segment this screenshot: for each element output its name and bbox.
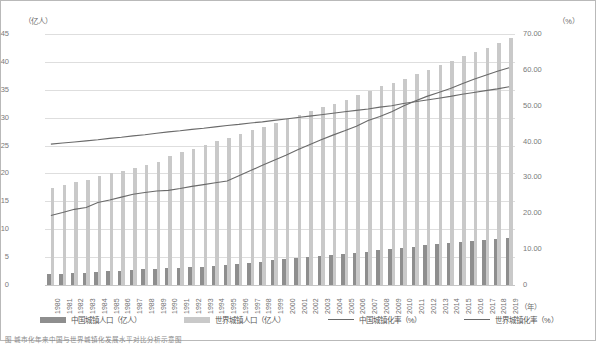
x-axis-tick-label: 2016 — [477, 298, 484, 314]
legend-item[interactable]: 世界城镇人口（亿人） — [184, 314, 285, 325]
x-axis-tick-label: 1982 — [77, 298, 84, 314]
x-axis-tick-label: 2006 — [359, 298, 366, 314]
y-axis-right-tick-label: 10.00 — [523, 245, 563, 253]
x-axis-tick-label: 1985 — [113, 298, 120, 314]
legend-item-label: 中国城镇人口（亿人） — [71, 314, 141, 325]
x-axis-tick-label: 1996 — [242, 298, 249, 314]
legend-item[interactable]: 中国城镇化率（%） — [328, 314, 422, 325]
y-axis-right-tick-label: 30.00 — [523, 173, 563, 181]
x-axis-tick-label: 1986 — [124, 298, 131, 314]
x-axis-tick-label: 1998 — [265, 298, 272, 314]
x-axis-tick-label: 1999 — [277, 298, 284, 314]
y-axis-left-tick-label: 20 — [0, 169, 9, 177]
x-axis-unit: （年） — [520, 301, 541, 312]
x-axis-tick-label: 2007 — [371, 298, 378, 314]
x-axis-tick-label: 2004 — [336, 298, 343, 314]
x-axis-tick-label: 2015 — [465, 298, 472, 314]
y-axis-left-tick-label: 35 — [0, 86, 9, 94]
y-axis-left-unit: （亿人） — [24, 15, 52, 26]
line-china-urbanization-rate — [51, 68, 509, 216]
legend-item[interactable]: 世界城镇化率（%） — [464, 314, 558, 325]
x-axis-tick-label: 2018 — [500, 298, 507, 314]
y-axis-right-tick-label: 60.00 — [523, 66, 563, 74]
x-axis-tick-label: 2012 — [430, 298, 437, 314]
x-axis-tick-label: 2019 — [512, 298, 519, 314]
y-axis-left-tick-label: 15 — [0, 197, 9, 205]
figure-caption: 图 城市化年来中国与世界城镇化发展水平对比分析示意图 — [5, 334, 182, 344]
y-axis-left-tick-label: 40 — [0, 58, 9, 66]
x-axis-tick-label: 2005 — [348, 298, 355, 314]
x-axis-tick-label: 1981 — [66, 298, 73, 314]
x-axis-tick-label: 1984 — [101, 298, 108, 314]
line-series-layer — [45, 34, 515, 285]
legend-line-swatch-icon — [464, 319, 490, 320]
x-axis-tick-label: 2001 — [301, 298, 308, 314]
x-axis-tick-label: 2008 — [383, 298, 390, 314]
y-axis-left-tick-label: 30 — [0, 114, 9, 122]
plot-area: 454035302520151050 70.0060.0050.0040.003… — [45, 34, 515, 285]
legend-bar-swatch-icon — [40, 317, 66, 323]
y-axis-right-tick-label: 40.00 — [523, 138, 563, 146]
y-axis-right-tick-label: 50.00 — [523, 102, 563, 110]
x-axis-tick-label: 2010 — [406, 298, 413, 314]
x-axis-tick-label: 1993 — [207, 298, 214, 314]
x-axis-tick-label: 2014 — [453, 298, 460, 314]
y-axis-right-tick-label: 70.00 — [523, 30, 563, 38]
legend-bar-swatch-icon — [184, 317, 210, 323]
y-axis-left-tick-label: 25 — [0, 142, 9, 150]
legend-item-label: 世界城镇人口（亿人） — [215, 314, 285, 325]
chart-legend: 中国城镇人口（亿人）世界城镇人口（亿人）中国城镇化率（%）世界城镇化率（%） — [1, 314, 596, 325]
x-axis-tick-label: 2009 — [395, 298, 402, 314]
y-axis-left-tick-label: 10 — [0, 225, 9, 233]
x-axis-tick-label: 1980 — [54, 298, 61, 314]
legend-item-label: 中国城镇化率（%） — [359, 314, 422, 325]
x-axis-tick-label: 2013 — [442, 298, 449, 314]
x-axis-tick-label: 2000 — [289, 298, 296, 314]
x-axis-tick-label: 1987 — [136, 298, 143, 314]
x-axis-tick-label: 2011 — [418, 299, 425, 314]
x-axis-tick-label: 2002 — [312, 298, 319, 314]
x-axis-tick-label: 1988 — [148, 298, 155, 314]
x-axis-tick-label: 2003 — [324, 298, 331, 314]
y-axis-left-tick-label: 0 — [0, 281, 9, 289]
x-axis-tick-label: 1995 — [230, 298, 237, 314]
x-axis-tick-label: 1983 — [89, 298, 96, 314]
y-axis-right-tick-label: 0 — [523, 281, 563, 289]
x-axis-tick-label: 1990 — [171, 298, 178, 314]
x-axis-tick-label: 1997 — [254, 298, 261, 314]
y-axis-left-tick-label: 45 — [0, 30, 9, 38]
gridline — [45, 285, 515, 286]
y-axis-right-tick-label: 20.00 — [523, 209, 563, 217]
x-axis-tick-label: 1994 — [218, 298, 225, 314]
y-axis-left-tick-label: 5 — [0, 253, 9, 261]
legend-item[interactable]: 中国城镇人口（亿人） — [40, 314, 141, 325]
x-axis-tick-label: 2017 — [489, 298, 496, 314]
x-axis-tick-label: 1989 — [160, 298, 167, 314]
x-axis-tick-label: 1991 — [183, 298, 190, 314]
legend-item-label: 世界城镇化率（%） — [495, 314, 558, 325]
line-world-urbanization-rate — [51, 87, 509, 144]
x-axis-tick-label: 1992 — [195, 298, 202, 314]
y-axis-right-unit: （%） — [558, 15, 579, 26]
legend-line-swatch-icon — [328, 319, 354, 320]
